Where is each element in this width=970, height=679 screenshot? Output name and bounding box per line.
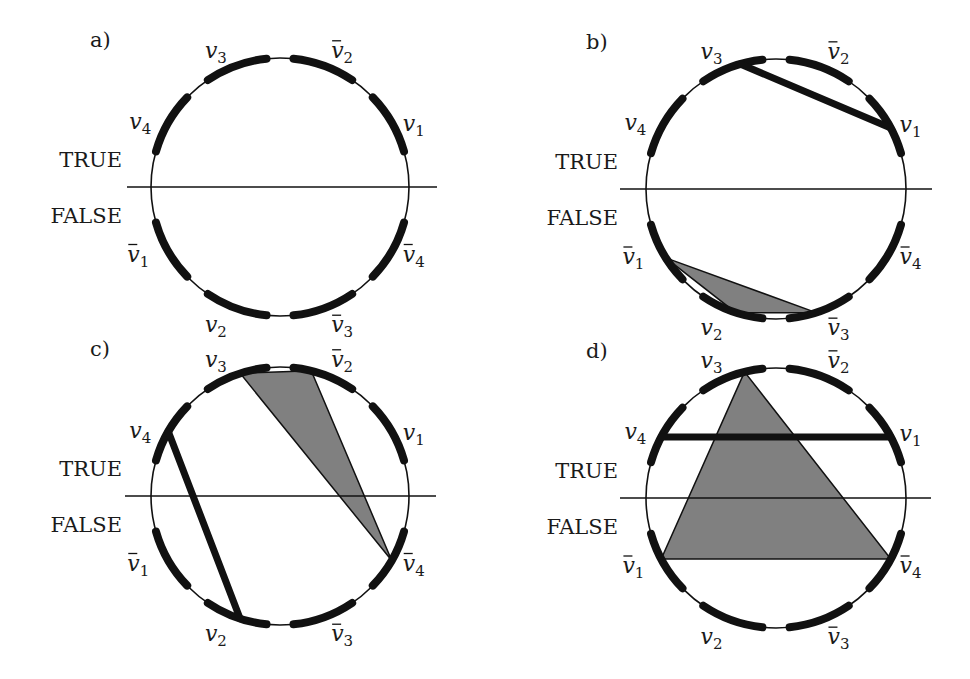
literal-label-v2bar: v2 bbox=[331, 38, 353, 67]
literal-label-v2: v2 bbox=[701, 624, 723, 653]
false-label: FALSE bbox=[50, 204, 122, 228]
shaded-triangle bbox=[661, 372, 891, 559]
literal-arc-v4 bbox=[156, 97, 187, 151]
literal-label-v3: v3 bbox=[205, 38, 227, 67]
true-label: TRUE bbox=[555, 150, 618, 174]
panel-c: v3v2v1v4v1v4v2v3c)TRUEFALSE bbox=[50, 337, 436, 650]
figure-canvas: v3v2v1v4v1v4v2v3a)TRUEFALSE v3v2v1v4v1v4… bbox=[0, 0, 970, 679]
literal-label-v2bar: v2 bbox=[827, 39, 849, 68]
literal-label-v2: v2 bbox=[205, 621, 227, 650]
literal-label-v4bar: v4 bbox=[403, 242, 425, 271]
literal-label-v1bar: v1 bbox=[622, 244, 644, 273]
literal-label-v4: v4 bbox=[129, 109, 151, 138]
literal-label-v3: v3 bbox=[205, 347, 227, 376]
literal-label-v2: v2 bbox=[701, 315, 723, 344]
true-label: TRUE bbox=[59, 148, 122, 172]
literal-label-v3bar: v3 bbox=[331, 312, 353, 341]
literal-label-v4: v4 bbox=[129, 418, 151, 447]
literal-label-v3: v3 bbox=[701, 348, 723, 377]
literal-arc-v4bar bbox=[870, 225, 901, 279]
literal-label-v1bar: v1 bbox=[622, 553, 644, 582]
literal-arc-v1 bbox=[373, 406, 404, 460]
false-label: FALSE bbox=[546, 206, 618, 230]
panel-label: a) bbox=[90, 28, 111, 52]
false-label: FALSE bbox=[50, 513, 122, 537]
panel-b: v3v2v1v4v1v4v2v3b)TRUEFALSE bbox=[546, 30, 932, 344]
literal-label-v1: v1 bbox=[900, 112, 922, 141]
panel-label: c) bbox=[90, 337, 110, 361]
literal-arc-v4 bbox=[651, 99, 682, 153]
literal-label-v3bar: v3 bbox=[331, 621, 353, 650]
literal-arc-v1 bbox=[373, 97, 404, 151]
literal-label-v4: v4 bbox=[624, 419, 646, 448]
literal-label-v4: v4 bbox=[624, 110, 646, 139]
panel-label: b) bbox=[586, 30, 608, 54]
edge-v4-v2 bbox=[168, 432, 240, 619]
literal-label-v2bar: v2 bbox=[827, 348, 849, 377]
literal-label-v1: v1 bbox=[403, 111, 425, 140]
literal-label-v4bar: v4 bbox=[900, 244, 922, 273]
literal-label-v3bar: v3 bbox=[827, 624, 849, 653]
literal-arc-v1bar bbox=[651, 225, 682, 279]
literal-label-v4bar: v4 bbox=[900, 553, 922, 582]
literal-label-v1: v1 bbox=[403, 420, 425, 449]
literal-arc-v1bar bbox=[156, 223, 187, 277]
panel-label: d) bbox=[586, 339, 608, 363]
literal-label-v1: v1 bbox=[900, 421, 922, 450]
panel-d: v3v2v1v4v1v4v2v3d)TRUEFALSE bbox=[546, 339, 931, 653]
true-label: TRUE bbox=[59, 457, 122, 481]
literal-label-v2: v2 bbox=[205, 312, 227, 341]
literal-label-v3bar: v3 bbox=[827, 315, 849, 344]
literal-label-v1bar: v1 bbox=[127, 551, 149, 580]
literal-label-v2bar: v2 bbox=[331, 347, 353, 376]
literal-label-v4bar: v4 bbox=[403, 551, 425, 580]
true-label: TRUE bbox=[555, 459, 618, 483]
literal-label-v1bar: v1 bbox=[127, 242, 149, 271]
literal-label-v3: v3 bbox=[701, 39, 723, 68]
literal-arc-v4bar bbox=[373, 223, 404, 277]
false-label: FALSE bbox=[546, 515, 618, 539]
literal-arc-v1bar bbox=[156, 532, 187, 586]
shaded-triangle bbox=[240, 371, 392, 561]
panel-a: v3v2v1v4v1v4v2v3a)TRUEFALSE bbox=[50, 28, 437, 341]
